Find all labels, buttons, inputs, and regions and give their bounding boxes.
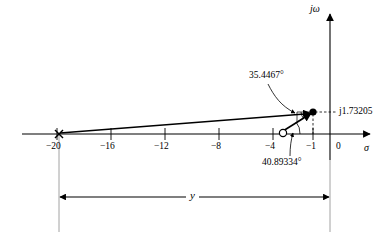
tick-label-minus-8: −8 (211, 142, 221, 152)
angle-arc-upper (301, 112, 303, 118)
real-axis-label: σ (364, 143, 369, 153)
diagram-canvas (0, 0, 390, 245)
angle-arc-lower (296, 122, 300, 134)
zero-marker-circle (279, 129, 286, 136)
leader-upper-angle (268, 84, 295, 113)
tick-label-zero: 0 (336, 142, 341, 152)
figure-root: −20 −16 −12 −8 −4 −1 0 σ jω 35.4467° 40.… (0, 0, 390, 245)
leader-lower-angle (290, 133, 293, 156)
tick-label-minus-20: −20 (46, 142, 61, 152)
closed-loop-pole-dot (309, 108, 316, 115)
angle-label-upper: 35.4467° (249, 71, 284, 81)
tick-label-minus-16: −16 (100, 142, 115, 152)
pole-value-label: j1.73205 (339, 107, 373, 117)
dimension-label-y: y (186, 190, 199, 201)
angle-label-lower: 40.89334° (262, 158, 301, 168)
tick-label-minus-12: −12 (154, 142, 169, 152)
tick-label-minus-4: −4 (265, 142, 275, 152)
tick-label-minus-1: −1 (306, 142, 316, 152)
imaginary-axis-label: jω (310, 4, 320, 14)
